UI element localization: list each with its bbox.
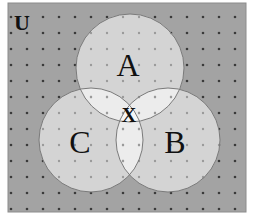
set-c-label: C xyxy=(69,124,90,160)
set-a-label: A xyxy=(116,47,139,83)
venn-diagram-canvas: U A B C X xyxy=(0,0,254,220)
triple-intersection-label: X xyxy=(122,104,137,126)
set-b-label: B xyxy=(164,124,185,160)
universe-label: U xyxy=(14,10,30,35)
venn-diagram: U A B C X xyxy=(0,0,254,220)
